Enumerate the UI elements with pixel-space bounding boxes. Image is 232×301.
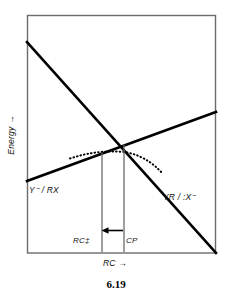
figure-caption: 6.19 [0, 278, 232, 290]
curve-label-product: YR / :X⁻ [163, 192, 196, 202]
y-axis-label: Energy → [6, 107, 16, 163]
plot-frame [28, 16, 216, 254]
energy-reaction-coordinate-diagram [0, 0, 232, 301]
curve-label-reactant: Y⁻ / RX [29, 185, 59, 195]
transition-state-label: RC‡ [73, 236, 90, 245]
crossing-point-label: CP [126, 236, 138, 245]
figure-container: Energy → RC → Y⁻ / RX YR / :X⁻ RC‡ CP 6.… [0, 0, 232, 301]
x-axis-label: RC → [103, 258, 127, 268]
